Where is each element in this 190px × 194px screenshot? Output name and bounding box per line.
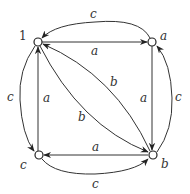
node-label-c: c [20,158,27,172]
edge-label-b-1: b [110,75,118,89]
node-label-1: 1 [19,29,27,43]
node-a [148,38,156,46]
edge-label-1-c: c [7,90,14,104]
node-label-b: b [161,157,169,171]
edge-label-a-b: a [140,91,147,105]
edge-label-a-1: c [90,7,97,21]
edge-c-to-b [42,159,148,174]
edge-label-1-a: a [91,44,98,58]
node-c [35,151,43,159]
edge-1-to-b [40,46,148,152]
edge-b-to-1 [43,44,150,151]
node-b [149,151,157,159]
edge-label-c-1: a [43,91,50,105]
state-diagram: 1 a c b a a a a b b c c c c [0,0,190,194]
edge-label-b-c: a [92,140,99,154]
edge-b-to-a [157,46,172,152]
node-label-a: a [160,29,167,43]
edge-label-c-b: c [92,177,99,191]
node-1 [34,38,42,46]
edge-a-to-1 [42,21,150,38]
edge-1-to-c [20,46,35,151]
edge-label-1-b: b [78,110,86,124]
edge-label-b-a: c [175,90,182,104]
